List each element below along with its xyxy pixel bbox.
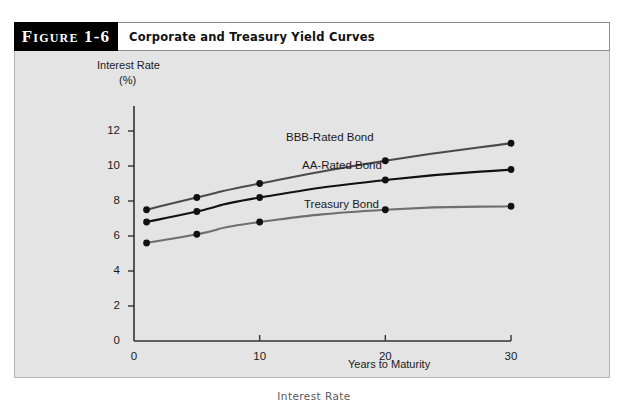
x-axis-ticks [260,335,511,341]
figure-number-badge: Figure 1-6 [14,22,118,51]
figure-number-label: Figure 1-6 [22,27,111,47]
y-tick-label: 0 [88,334,120,346]
x-tick-label: 10 [240,350,280,362]
data-point-marker [193,194,200,201]
figure-header: Figure 1-6 Corporate and Treasury Yield … [14,22,610,51]
y-axis-ticks [128,131,134,306]
data-point-marker [508,166,515,173]
y-tick-label: 10 [88,159,120,171]
data-point-marker [193,208,200,215]
y-tick-label: 12 [88,124,120,136]
x-tick-label: 20 [365,350,405,362]
data-point-marker [143,240,150,247]
bottom-caption: Interest Rate [0,390,628,402]
data-point-marker [256,219,263,226]
data-point-marker [508,140,515,147]
data-point-marker [143,206,150,213]
series-label-treasury: Treasury Bond [304,198,379,210]
x-tick-label: 30 [491,350,531,362]
y-tick-label: 8 [88,194,120,206]
x-tick-label: 0 [114,350,154,362]
series-curves [143,140,514,247]
data-point-marker [382,157,389,164]
yield-curve-plot [15,51,610,378]
y-tick-label: 6 [88,229,120,241]
data-point-marker [382,206,389,213]
y-axis-title-line1: Interest Rate [97,59,160,71]
data-point-marker [256,180,263,187]
series-line-treasury [147,206,511,243]
y-axis-title-line2: (%) [119,74,136,86]
chart-panel: Interest Rate (%) Years to Maturity 0246… [14,51,610,378]
series-label-aa: AA-Rated Bond [302,159,382,171]
figure-title-bar: Corporate and Treasury Yield Curves [118,22,610,51]
figure-title: Corporate and Treasury Yield Curves [129,30,375,44]
y-tick-label: 4 [88,264,120,276]
data-point-marker [382,177,389,184]
y-tick-label: 2 [88,299,120,311]
data-point-marker [193,231,200,238]
data-point-marker [508,203,515,210]
data-point-marker [143,219,150,226]
series-label-bbb: BBB-Rated Bond [286,131,374,143]
data-point-marker [256,194,263,201]
